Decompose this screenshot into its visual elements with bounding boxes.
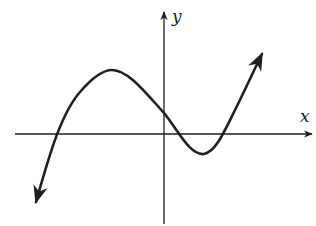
x-axis-label: x	[300, 106, 310, 126]
y-axis-label: y	[171, 6, 182, 26]
cubic-graph: x y	[0, 0, 316, 226]
cubic-curve	[36, 54, 262, 202]
